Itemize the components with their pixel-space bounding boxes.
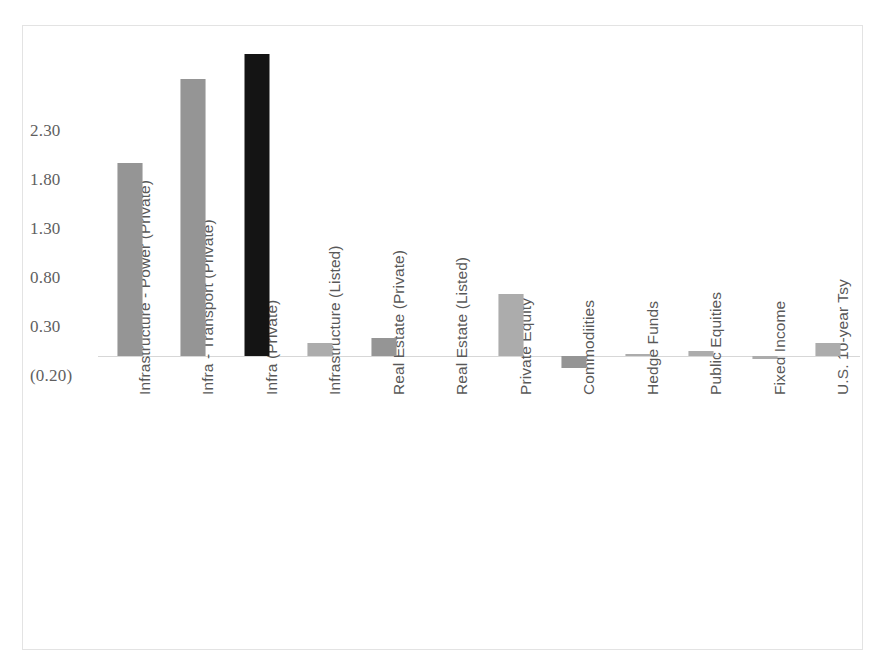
bar-1[interactable] [181,79,206,356]
bar-slot [543,25,607,650]
y-axis-tick-1: 1.80 [30,171,98,188]
bar-2[interactable] [244,54,269,356]
y-axis-tick-5: (0.20) [30,367,98,384]
bar-slot [162,25,226,650]
bar-6[interactable] [498,294,523,356]
chart-plot-area: Infrastructure - Power (Private)Infra - … [98,25,863,650]
bar-slot [479,25,543,650]
bar-slot [797,25,861,650]
bar-3[interactable] [308,343,333,356]
bar-9[interactable] [689,351,714,356]
bar-slot [733,25,797,650]
bar-0[interactable] [117,163,142,356]
bar-slot [352,25,416,650]
bar-4[interactable] [371,338,396,356]
bar-7[interactable] [562,356,587,368]
bar-11[interactable] [816,343,841,356]
bar-chart-figure: 2.301.801.300.800.30(0.20) Infrastructur… [0,0,890,672]
bar-slot [606,25,670,650]
y-axis-tick-4: 0.30 [30,318,98,335]
bar-slot [98,25,162,650]
bar-slot [416,25,480,650]
y-axis-tick-0: 2.30 [30,122,98,139]
y-axis-tick-3: 0.80 [30,269,98,286]
bar-slot [289,25,353,650]
y-axis-tick-2: 1.30 [30,220,98,237]
bar-10[interactable] [752,356,777,359]
bar-8[interactable] [625,354,650,356]
y-axis-tick-labels: 2.301.801.300.800.30(0.20) [30,25,98,650]
bar-slot [225,25,289,650]
bar-slot [670,25,734,650]
